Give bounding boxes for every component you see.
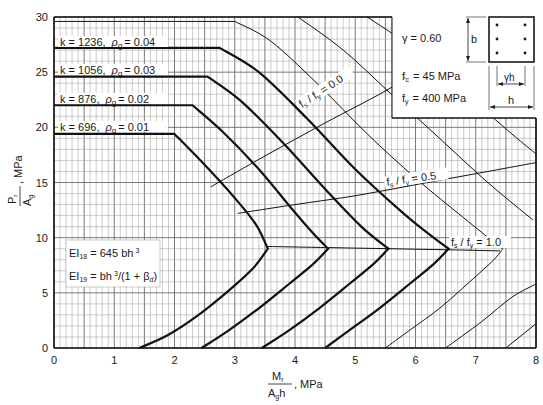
svg-text:Mr: Mr [272, 370, 284, 383]
fy-value: fy= 400 MPa [402, 92, 467, 106]
y-tick-label: 10 [36, 232, 48, 244]
x-tick-label: 3 [232, 354, 238, 366]
section-gamma-h-label: γh [504, 72, 515, 83]
series-thin-tail-b [506, 324, 536, 348]
svg-text:k = 876,ρg= 0.02: k = 876,ρg= 0.02 [60, 93, 149, 107]
x-tick-label: 7 [473, 354, 479, 366]
fs-fy-10-label: fs / fy = 1.0 [449, 236, 511, 250]
k-label-003: k = 1056,ρg= 0.03 [58, 64, 168, 78]
svg-text:fs / fy = 0.5: fs / fy = 0.5 [386, 169, 438, 190]
y-tick-label: 20 [36, 121, 48, 133]
y-tick-label: 15 [36, 177, 48, 189]
section-h-label: h [508, 94, 514, 106]
y-tick-label: 30 [36, 11, 48, 23]
y-axis-title: Pr Ag , MPa [6, 154, 35, 206]
svg-text:k = 696,ρg= 0.01: k = 696,ρg= 0.01 [60, 121, 149, 135]
x-axis-title: Mr Agh , MPa [268, 370, 324, 401]
y-tick-label: 5 [42, 287, 48, 299]
interaction-diagram: 012345678051015202530 k = 1236,ρg= 0.04 … [0, 0, 543, 405]
gamma-value: γ = 0.60 [402, 32, 441, 44]
series-thin-tail-a [446, 284, 536, 348]
x-tick-label: 8 [533, 354, 539, 366]
fs-fy-05-label: fs / fy = 0.5 [384, 167, 449, 190]
k-label-004: k = 1236,ρg= 0.04 [58, 36, 168, 50]
x-tick-label: 0 [51, 354, 57, 366]
svg-text:Ag: Ag [21, 195, 35, 206]
y-tick-label: 25 [36, 66, 48, 78]
svg-text:fs / fy = 1.0: fs / fy = 1.0 [451, 236, 501, 250]
x-tick-label: 2 [171, 354, 177, 366]
x-tick-label: 4 [292, 354, 298, 366]
svg-text:, MPa: , MPa [294, 378, 324, 390]
svg-text:Agh: Agh [268, 387, 285, 401]
x-tick-label: 6 [412, 354, 418, 366]
y-tick-label: 0 [42, 342, 48, 354]
section-b-label: b [471, 33, 477, 45]
svg-text:, MPa: , MPa [12, 154, 24, 184]
x-tick-label: 1 [111, 354, 117, 366]
svg-text:Pr: Pr [6, 194, 19, 204]
x-tick-label: 5 [352, 354, 358, 366]
series-k-1056-g-0-03 [54, 77, 388, 348]
